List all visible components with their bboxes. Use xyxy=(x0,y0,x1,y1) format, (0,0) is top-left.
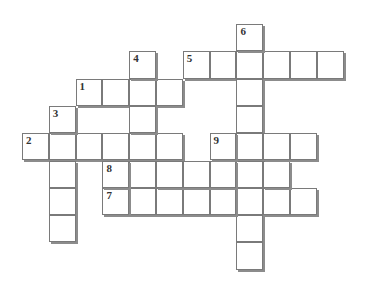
crossword-cell[interactable]: 7 xyxy=(102,188,129,215)
crossword-cell[interactable] xyxy=(236,242,263,269)
clue-number: 8 xyxy=(106,162,112,175)
crossword-cell[interactable] xyxy=(102,133,129,160)
clue-number: 9 xyxy=(214,134,220,147)
crossword-cell[interactable] xyxy=(156,161,183,188)
crossword-cell[interactable] xyxy=(236,51,263,78)
crossword-cell[interactable] xyxy=(129,188,156,215)
crossword-cell[interactable] xyxy=(290,51,317,78)
crossword-cell[interactable] xyxy=(49,161,76,188)
crossword-cell[interactable] xyxy=(129,106,156,133)
crossword-cell[interactable] xyxy=(129,161,156,188)
crossword-grid: 123456789 xyxy=(0,0,365,291)
crossword-cell[interactable] xyxy=(263,161,290,188)
crossword-cell[interactable] xyxy=(183,188,210,215)
crossword-cell[interactable]: 9 xyxy=(210,133,237,160)
crossword-cell[interactable] xyxy=(236,106,263,133)
crossword-cell[interactable]: 8 xyxy=(102,161,129,188)
crossword-cell[interactable] xyxy=(236,79,263,106)
crossword-cell[interactable]: 4 xyxy=(129,51,156,78)
crossword-cell[interactable] xyxy=(236,188,263,215)
crossword-cell[interactable] xyxy=(263,188,290,215)
crossword-cell[interactable] xyxy=(102,79,129,106)
crossword-cell[interactable] xyxy=(210,161,237,188)
crossword-cell[interactable] xyxy=(49,133,76,160)
crossword-cell[interactable] xyxy=(236,161,263,188)
crossword-cell[interactable]: 2 xyxy=(22,133,49,160)
crossword-cell[interactable] xyxy=(317,51,344,78)
crossword-cell[interactable] xyxy=(290,188,317,215)
crossword-cell[interactable] xyxy=(263,133,290,160)
crossword-cell[interactable] xyxy=(129,79,156,106)
crossword-cell[interactable]: 6 xyxy=(236,24,263,51)
crossword-cell[interactable] xyxy=(210,188,237,215)
clue-number: 1 xyxy=(80,80,86,93)
crossword-cell[interactable] xyxy=(49,215,76,242)
crossword-cell[interactable] xyxy=(183,161,210,188)
crossword-cell[interactable] xyxy=(156,188,183,215)
crossword-cell[interactable] xyxy=(263,51,290,78)
crossword-cell[interactable]: 3 xyxy=(49,106,76,133)
clue-number: 3 xyxy=(53,107,59,120)
crossword-cell[interactable] xyxy=(290,133,317,160)
clue-number: 6 xyxy=(240,25,246,38)
crossword-cell[interactable] xyxy=(236,133,263,160)
clue-number: 5 xyxy=(187,52,193,65)
crossword-cell[interactable] xyxy=(210,51,237,78)
crossword-cell[interactable] xyxy=(236,215,263,242)
crossword-cell[interactable] xyxy=(156,79,183,106)
clue-number: 2 xyxy=(26,134,32,147)
crossword-cell[interactable] xyxy=(156,133,183,160)
clue-number: 7 xyxy=(106,189,112,202)
crossword-cell[interactable]: 1 xyxy=(76,79,103,106)
crossword-cell[interactable] xyxy=(129,133,156,160)
crossword-cell[interactable] xyxy=(49,188,76,215)
clue-number: 4 xyxy=(133,52,139,65)
crossword-cell[interactable] xyxy=(76,133,103,160)
crossword-cell[interactable]: 5 xyxy=(183,51,210,78)
